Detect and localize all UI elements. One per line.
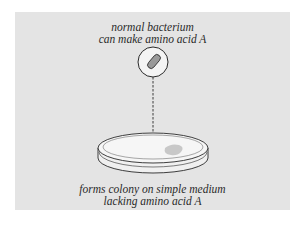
diagram-panel: normal bacterium can make amino acid A f…: [15, 12, 290, 210]
bottom-caption-line1: forms colony on simple medium: [15, 183, 290, 195]
bacterium-icon: [138, 47, 168, 77]
bottom-caption: forms colony on simple medium lacking am…: [15, 183, 290, 207]
petri-dish-icon: [98, 133, 208, 173]
bottom-caption-line2: lacking amino acid A: [15, 195, 290, 207]
diagram-artwork: [15, 12, 290, 210]
